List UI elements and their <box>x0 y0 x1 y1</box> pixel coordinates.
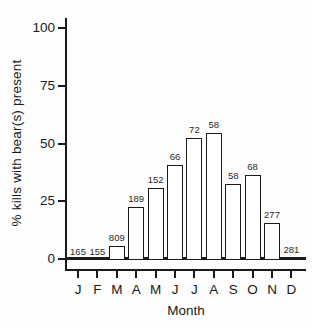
x-tick <box>252 271 254 278</box>
x-tick <box>271 271 273 278</box>
x-tick-label: S <box>223 282 243 297</box>
x-axis-title: Month <box>66 303 306 318</box>
bar <box>186 138 202 260</box>
x-tick <box>174 271 176 278</box>
y-tick-label: 25 <box>21 194 55 208</box>
bar-count-label: 58 <box>201 120 227 130</box>
x-tick-label: F <box>87 282 107 297</box>
bar-count-label: 281 <box>278 245 304 255</box>
bar-count-label: 155 <box>84 247 110 257</box>
x-tick-label: M <box>146 282 166 297</box>
x-tick <box>116 271 118 278</box>
bar-count-label: 152 <box>143 175 169 185</box>
y-tick-label: 75 <box>21 79 55 93</box>
x-tick <box>77 271 79 278</box>
x-tick-label: J <box>165 282 185 297</box>
x-tick <box>213 271 215 278</box>
bar-count-label: 58 <box>220 171 246 181</box>
x-tick-label: J <box>68 282 88 297</box>
x-tick <box>290 271 292 278</box>
bar <box>225 184 241 260</box>
bar-count-label: 68 <box>240 162 266 172</box>
x-tick-label: D <box>281 282 301 297</box>
y-tick-label: 50 <box>21 137 55 151</box>
bar <box>128 207 144 260</box>
x-tick-label: O <box>243 282 263 297</box>
x-tick-label: N <box>262 282 282 297</box>
bar <box>167 165 183 260</box>
bar-count-label: 189 <box>123 194 149 204</box>
bar-count-label: 277 <box>259 210 285 220</box>
y-tick <box>58 27 65 29</box>
x-tick-label: M <box>107 282 127 297</box>
bar <box>283 258 299 260</box>
bar-count-label: 809 <box>104 233 130 243</box>
bar <box>148 188 164 260</box>
x-tick <box>135 271 137 278</box>
y-tick <box>58 200 65 202</box>
x-axis-line <box>65 269 306 271</box>
x-tick <box>155 271 157 278</box>
y-tick <box>58 258 65 260</box>
bar <box>109 246 125 260</box>
bar-chart: % kills with bear(s) present 0255075100 … <box>0 0 312 328</box>
x-tick <box>232 271 234 278</box>
y-tick <box>58 85 65 87</box>
y-tick-label: 0 <box>21 252 55 266</box>
bar <box>206 133 222 260</box>
y-axis-line <box>65 18 67 271</box>
bar-count-label: 66 <box>162 152 188 162</box>
x-tick <box>193 271 195 278</box>
x-tick-label: A <box>126 282 146 297</box>
y-tick <box>58 143 65 145</box>
x-tick-label: J <box>184 282 204 297</box>
x-tick-label: A <box>204 282 224 297</box>
x-tick <box>96 271 98 278</box>
y-tick-label: 100 <box>21 21 55 35</box>
